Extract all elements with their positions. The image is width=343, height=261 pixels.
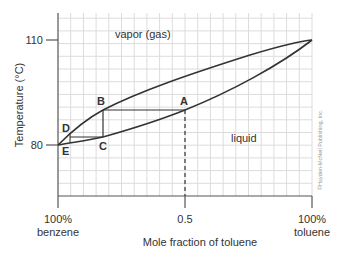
x-tick-label-0-line2: benzene [37, 226, 79, 238]
copyright-text: ©Hayden-McNeil Publishing, Inc. [317, 109, 323, 190]
point-label-A: A [180, 95, 188, 107]
x-tick-label-1-line1: 100% [298, 213, 326, 225]
point-label-C: C [99, 140, 107, 152]
y-axis-label: Temperature (°C) [13, 63, 25, 147]
point-label-E: E [62, 145, 69, 157]
y-tick-label-80: 80 [31, 139, 43, 151]
point-label-B: B [97, 95, 105, 107]
region-label-liquid: liquid [231, 132, 257, 144]
x-tick-label-0-line1: 100% [44, 213, 72, 225]
region-label-vapor: vapor (gas) [115, 28, 171, 40]
y-tick-label-110: 110 [25, 34, 43, 46]
x-tick-label-0.5: 0.5 [177, 213, 192, 225]
phase-diagram: A B C D E vapor (gas) liquid 110 80 Temp… [0, 0, 343, 261]
x-axis-label: Mole fraction of toluene [143, 236, 257, 248]
x-tick-label-1-line2: toluene [294, 226, 330, 238]
point-label-D: D [62, 122, 70, 134]
